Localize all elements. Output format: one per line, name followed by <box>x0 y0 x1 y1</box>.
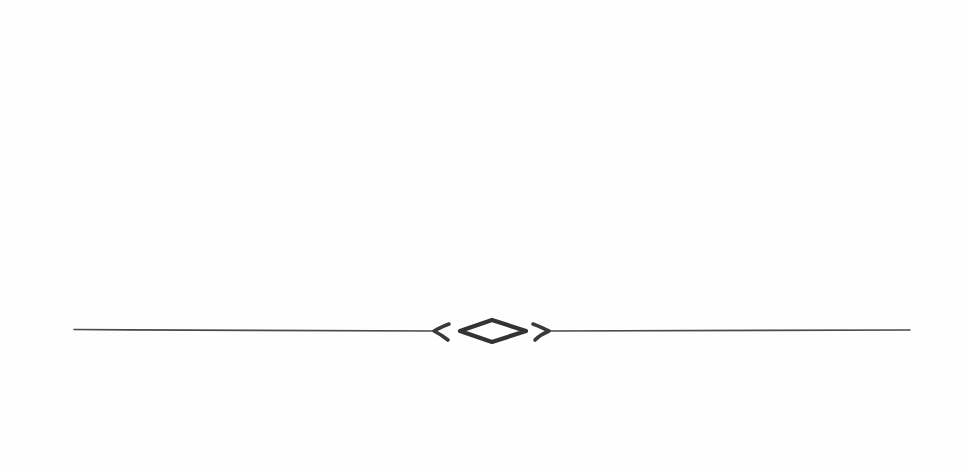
divider-line-right <box>548 330 910 331</box>
hollow-diamond-ornament-icon <box>460 320 526 342</box>
ornamental-divider <box>0 0 966 468</box>
chevron-right-ornament-icon <box>533 324 549 340</box>
page-canvas: Hand-drawn ornamental horizontal divider… <box>0 0 966 468</box>
divider-line-left <box>74 330 436 332</box>
chevron-left-ornament-icon <box>434 324 449 340</box>
